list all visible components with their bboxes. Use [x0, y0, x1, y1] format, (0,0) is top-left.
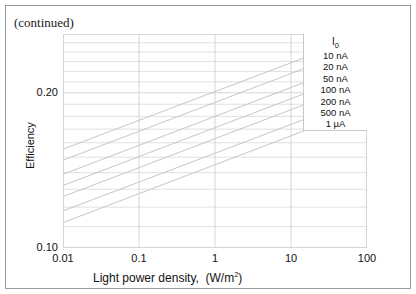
legend-title: I0 — [304, 36, 367, 50]
legend-item: 100 nA — [304, 84, 367, 95]
x-tick-label: 100 — [347, 252, 387, 264]
y-axis-title: Efficiency — [24, 122, 36, 169]
x-axis-title-main: Light power density, — [93, 271, 199, 285]
figure-container: (continued) 0.100.20 0.010.1110100 Effic… — [0, 0, 416, 294]
x-tick-label: 1 — [195, 252, 235, 264]
legend-item: 50 nA — [304, 73, 367, 84]
x-axis-title-units-pre: (W/m — [206, 271, 235, 285]
legend-box: I0 10 nA20 nA50 nA100 nA200 nA500 nA1 µA — [303, 34, 367, 131]
legend-item: 10 nA — [304, 50, 367, 61]
legend-item: 500 nA — [304, 107, 367, 118]
x-tick-label: 0.01 — [43, 252, 83, 264]
legend-title-subscript: 0 — [335, 41, 339, 50]
x-tick-label: 0.1 — [119, 252, 159, 264]
y-tick-label: 0.20 — [22, 86, 58, 98]
legend-item: 1 µA — [304, 118, 367, 129]
x-tick-label: 10 — [271, 252, 311, 264]
x-axis-title: Light power density, (W/m2) — [93, 270, 242, 285]
legend-item: 20 nA — [304, 61, 367, 72]
legend-item: 200 nA — [304, 96, 367, 107]
x-axis-title-units-post: ) — [238, 271, 242, 285]
legend-items: 10 nA20 nA50 nA100 nA200 nA500 nA1 µA — [304, 50, 367, 130]
continued-note: (continued) — [14, 15, 74, 31]
